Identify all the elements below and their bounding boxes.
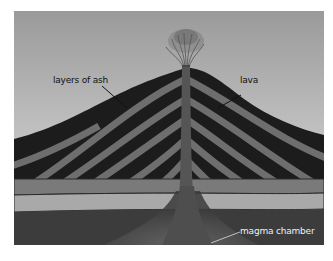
label-lava: lava <box>240 75 258 85</box>
rock-layer-1 <box>14 179 324 195</box>
volcano-illustration <box>14 11 324 245</box>
volcano-diagram <box>14 11 324 245</box>
label-magma-chamber: magma chamber <box>240 226 314 236</box>
label-layers-of-ash: layers of ash <box>53 75 108 85</box>
